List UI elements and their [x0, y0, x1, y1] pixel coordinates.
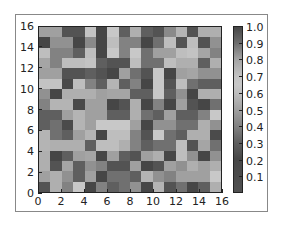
heatmap-cell [107, 140, 118, 150]
heatmap-cell [119, 161, 130, 171]
heatmap-cell [85, 140, 96, 150]
heatmap-cell [176, 79, 187, 89]
heatmap-cell [96, 58, 107, 68]
heatmap-cell [164, 120, 175, 130]
y-tick-label: 14 [14, 41, 34, 52]
heatmap-cell [210, 171, 221, 181]
heatmap-cell [198, 58, 209, 68]
heatmap-cell [130, 110, 141, 120]
heatmap-cell [153, 161, 164, 171]
y-tick-mark [38, 193, 42, 194]
heatmap-cell [50, 140, 61, 150]
heatmap-cell [107, 171, 118, 181]
heatmap-cell [198, 37, 209, 47]
y-tick-label: 6 [14, 125, 34, 136]
heatmap-cell [119, 171, 130, 181]
x-tick-mark [130, 189, 131, 193]
colorbar-tick-label: 0.5 [246, 105, 264, 116]
heatmap-cell [164, 110, 175, 120]
heatmap-cell [73, 161, 84, 171]
heatmap-cell [73, 89, 84, 99]
heatmap-cell [50, 120, 61, 130]
heatmap-cell [153, 89, 164, 99]
heatmap-cell [130, 68, 141, 78]
colorbar-tick-mark [239, 43, 243, 44]
heatmap-cell [210, 161, 221, 171]
heatmap-cell [153, 182, 164, 192]
y-tick-label: 10 [14, 83, 34, 94]
heatmap-cell [73, 110, 84, 120]
heatmap-cell [198, 89, 209, 99]
heatmap-cell [130, 79, 141, 89]
heatmap-cell [119, 110, 130, 120]
heatmap-cell [73, 79, 84, 89]
heatmap-cell [210, 48, 221, 58]
heatmap-cell [73, 140, 84, 150]
heatmap-cell [39, 99, 50, 109]
x-tick-label: 0 [35, 196, 42, 207]
heatmap-plot-area [38, 26, 222, 193]
heatmap-cell [96, 120, 107, 130]
heatmap-cell [107, 130, 118, 140]
heatmap-cell [187, 27, 198, 37]
heatmap-cell [176, 99, 187, 109]
heatmap-cell [96, 68, 107, 78]
heatmap-cell [164, 68, 175, 78]
heatmap-cell [210, 27, 221, 37]
heatmap-cell [210, 182, 221, 192]
colorbar-tick-label: 0.8 [246, 55, 264, 66]
heatmap-cell [153, 68, 164, 78]
heatmap-cell [164, 151, 175, 161]
y-tick-label: 8 [14, 104, 34, 115]
y-tick-mark [38, 172, 42, 173]
heatmap-cell [153, 120, 164, 130]
heatmap-cell [107, 151, 118, 161]
heatmap-cell [164, 37, 175, 47]
colorbar-tick-mark [239, 59, 243, 60]
heatmap-cell [141, 68, 152, 78]
heatmap-cell [62, 27, 73, 37]
x-tick-label: 2 [58, 196, 65, 207]
heatmap-cell [62, 130, 73, 140]
heatmap-cell [119, 140, 130, 150]
heatmap-cell [198, 27, 209, 37]
y-tick-label: 4 [14, 146, 34, 157]
heatmap-cell [164, 130, 175, 140]
heatmap-cell [62, 89, 73, 99]
heatmap-cell [119, 89, 130, 99]
heatmap-cell [85, 99, 96, 109]
heatmap-cell [119, 120, 130, 130]
heatmap-cell [62, 120, 73, 130]
heatmap-cell [73, 171, 84, 181]
heatmap-cell [187, 171, 198, 181]
heatmap-cell [130, 161, 141, 171]
heatmap-cell [62, 99, 73, 109]
colorbar-tick-mark [239, 93, 243, 94]
x-tick-mark [176, 189, 177, 193]
heatmap-cell [210, 140, 221, 150]
colorbar-tick-label: 0.6 [246, 88, 264, 99]
heatmap-cell [198, 48, 209, 58]
heatmap-cell [164, 27, 175, 37]
heatmap-cell [119, 58, 130, 68]
heatmap-cell [39, 89, 50, 99]
y-tick-label: 2 [14, 167, 34, 178]
heatmap-cell [176, 130, 187, 140]
heatmap-cell [153, 58, 164, 68]
heatmap-cell [107, 120, 118, 130]
heatmap-cell [85, 37, 96, 47]
heatmap-cell [119, 182, 130, 192]
heatmap-cell [73, 68, 84, 78]
heatmap-cell [198, 161, 209, 171]
heatmap-cell [210, 58, 221, 68]
heatmap-cell [210, 151, 221, 161]
heatmap-cell [141, 161, 152, 171]
heatmap-cell [141, 130, 152, 140]
heatmap-cell [141, 27, 152, 37]
heatmap-cell [210, 110, 221, 120]
heatmap-cell [198, 130, 209, 140]
colorbar-tick-label: 1.0 [246, 22, 264, 33]
heatmap-cell [164, 99, 175, 109]
y-tick-label: 16 [14, 21, 34, 32]
heatmap-cell [73, 151, 84, 161]
